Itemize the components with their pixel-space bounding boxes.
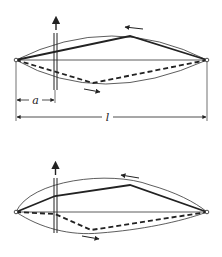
- right-support: [205, 210, 209, 214]
- force-rod: [54, 178, 57, 233]
- upper-envelope-arc: [16, 178, 207, 212]
- dimension-l: l: [17, 111, 206, 124]
- top-diagram: a l: [14, 20, 209, 124]
- right-arrow-icon: [84, 89, 100, 92]
- left-support: [14, 58, 18, 62]
- right-support: [205, 58, 209, 62]
- lower-envelope-arc: [16, 212, 207, 234]
- dimension-a: a: [17, 94, 54, 107]
- force-rod: [54, 33, 57, 90]
- lower-envelope-arc: [16, 60, 207, 84]
- diagram-canvas: a l: [0, 0, 222, 257]
- label-a: a: [32, 94, 39, 107]
- left-support: [14, 210, 18, 214]
- bottom-diagram: [14, 165, 209, 239]
- left-arrow-icon: [125, 27, 143, 29]
- right-arrow-icon: [82, 236, 99, 239]
- label-l: l: [106, 111, 110, 124]
- left-arrow-icon: [121, 175, 139, 178]
